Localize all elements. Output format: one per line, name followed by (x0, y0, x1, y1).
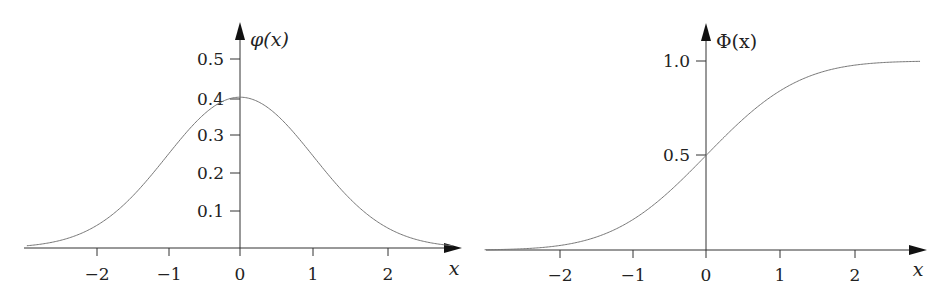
cdf-y-ticks (696, 61, 706, 155)
pdf-x-tick-label: 0 (235, 264, 246, 284)
pdf-x-axis-label: x (449, 257, 460, 279)
cdf-x-axis-label: x (913, 258, 924, 280)
pdf-x-tick-label: −2 (84, 264, 109, 284)
cdf-y-tick-label: 0.5 (663, 145, 690, 165)
cdf-x-tick-label: 0 (701, 265, 712, 285)
cdf-y-tick-label: 1.0 (663, 51, 690, 71)
cdf-y-axis-label: Φ(x) (716, 30, 757, 52)
pdf-x-axis-arrow-icon (444, 243, 462, 253)
cdf-x-ticks (560, 250, 855, 258)
pdf-y-tick-label: 0.4 (197, 89, 224, 109)
figure: −2 −1 0 1 2 x 0.5 0.4 0.3 0.2 0.1 φ(x) (0, 0, 948, 296)
pdf-x-ticks (97, 248, 388, 256)
pdf-chart: −2 −1 0 1 2 x 0.5 0.4 0.3 0.2 0.1 φ(x) (24, 22, 462, 284)
cdf-y-axis-arrow-icon (701, 23, 711, 41)
cdf-x-tick-label: −1 (620, 265, 645, 285)
pdf-y-axis-arrow-icon (235, 22, 245, 40)
pdf-y-axis-label: φ(x) (250, 28, 289, 50)
cdf-curve (485, 61, 920, 249)
cdf-x-tick-label: 1 (775, 265, 786, 285)
pdf-y-tick-label: 0.1 (197, 201, 224, 221)
pdf-y-tick-label: 0.3 (197, 125, 224, 145)
cdf-x-tick-label: 2 (850, 265, 861, 285)
pdf-x-tick-label: −1 (156, 264, 181, 284)
pdf-y-tick-label: 0.5 (197, 49, 224, 69)
cdf-x-axis-arrow-icon (909, 245, 927, 255)
pdf-y-tick-label: 0.2 (197, 163, 224, 183)
cdf-chart: −2 −1 0 1 2 x 1.0 0.5 Φ(x) (485, 23, 927, 285)
pdf-y-ticks (230, 59, 240, 211)
pdf-x-tick-label: 2 (383, 264, 394, 284)
cdf-x-tick-label: −2 (547, 265, 572, 285)
pdf-x-tick-label: 1 (308, 264, 319, 284)
